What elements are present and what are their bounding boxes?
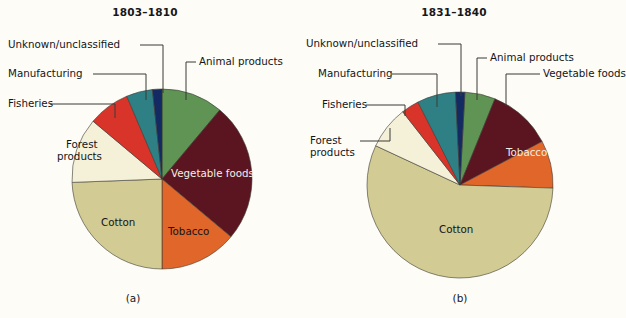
label-cotton-b: Cotton	[439, 224, 473, 236]
label-manufacturing-a: Manufacturing	[8, 68, 83, 80]
label-forest-products-a-line2: products	[57, 151, 102, 163]
label-tobacco-b: Tobacco	[506, 147, 547, 159]
label-fisheries-a: Fisheries	[8, 98, 53, 110]
label-manufacturing-b: Manufacturing	[318, 68, 393, 80]
label-forest-products-b-line2: products	[310, 147, 355, 159]
label-unknown-unclassified-a: Unknown/unclassified	[8, 39, 120, 51]
label-animal-products-a: Animal products	[199, 56, 283, 68]
panel-b-caption: (b)	[300, 292, 620, 304]
label-fisheries-b: Fisheries	[322, 99, 367, 111]
label-vegetable-foods-b: Vegetable foods	[543, 68, 626, 80]
label-animal-products-b: Animal products	[490, 52, 574, 64]
panel-a-caption: (a)	[0, 292, 288, 304]
label-cotton-a: Cotton	[101, 217, 135, 229]
panel-b-1831-1840: 1831–1840 Unknown/unclassified Manuf	[300, 0, 620, 318]
label-tobacco-a: Tobacco	[168, 226, 209, 238]
panel-a-1803-1810: 1803–1810 Unknown/unclassified Manufactu…	[0, 0, 310, 318]
label-forest-products-a-line1: Forest	[66, 139, 98, 151]
label-unknown-unclassified-b: Unknown/unclassified	[306, 38, 418, 50]
label-forest-products-b-line1: Forest	[310, 135, 342, 147]
label-vegetable-foods-a: Vegetable foods	[171, 168, 254, 180]
